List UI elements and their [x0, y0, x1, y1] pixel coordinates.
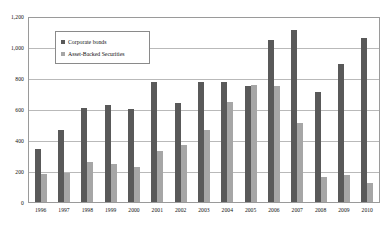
y-tick-label: 200	[0, 169, 24, 175]
bar-group	[216, 18, 239, 202]
legend: Corporate bonds Asset-Backed Securities	[55, 31, 150, 64]
bar	[41, 174, 47, 202]
bar	[367, 183, 373, 202]
x-tick-label: 2008	[309, 207, 332, 214]
legend-item-corporate-bonds: Corporate bonds	[61, 36, 149, 48]
x-tick-label: 2005	[239, 207, 262, 214]
x-tick-label: 2001	[146, 207, 169, 214]
y-tick-label: 1,000	[0, 45, 24, 51]
x-tick-label: 2010	[356, 207, 379, 214]
bar	[227, 102, 233, 202]
bar-group	[239, 18, 262, 202]
bar-group	[262, 18, 285, 202]
bar-group	[286, 18, 309, 202]
bar	[64, 173, 70, 202]
x-tick-label: 2002	[169, 207, 192, 214]
bar-group	[192, 18, 215, 202]
bar	[87, 162, 93, 202]
legend-swatch-icon	[61, 40, 65, 44]
x-tick-label: 2004	[216, 207, 239, 214]
x-tick-label: 2006	[262, 207, 285, 214]
x-tick-label: 1996	[29, 207, 52, 214]
x-tick-label: 1998	[76, 207, 99, 214]
bar	[251, 85, 257, 202]
bar	[274, 86, 280, 202]
bar-chart: 1,200 1,000 800 600 400 200 0 1996199719…	[0, 0, 390, 245]
bar	[321, 177, 327, 202]
bar	[297, 123, 303, 202]
bar	[204, 130, 210, 202]
y-tick-label: 0	[0, 200, 24, 206]
x-tick-label: 2009	[332, 207, 355, 214]
y-tick-label: 1,200	[0, 14, 24, 20]
legend-item-asset-backed-securities: Asset-Backed Securities	[61, 48, 149, 60]
y-tick-label: 400	[0, 138, 24, 144]
bar	[134, 167, 140, 202]
bar-group	[309, 18, 332, 202]
y-tick-label: 600	[0, 107, 24, 113]
bar-group	[356, 18, 379, 202]
x-tick-label: 1999	[99, 207, 122, 214]
bar	[361, 38, 367, 202]
x-axis: 1996199719981999200020012002200320042005…	[29, 207, 379, 214]
x-tick-label: 2000	[122, 207, 145, 214]
bar	[157, 151, 163, 202]
bar	[111, 164, 117, 202]
bar	[344, 175, 350, 202]
bar-group	[29, 18, 52, 202]
bar	[181, 145, 187, 203]
legend-label: Asset-Backed Securities	[68, 51, 125, 58]
y-tick-label: 800	[0, 76, 24, 82]
bar-group	[332, 18, 355, 202]
x-tick-label: 2007	[286, 207, 309, 214]
legend-label: Corporate bonds	[68, 39, 106, 46]
x-tick-label: 1997	[52, 207, 75, 214]
x-tick-label: 2003	[192, 207, 215, 214]
bar-group	[169, 18, 192, 202]
legend-swatch-icon	[61, 52, 65, 56]
